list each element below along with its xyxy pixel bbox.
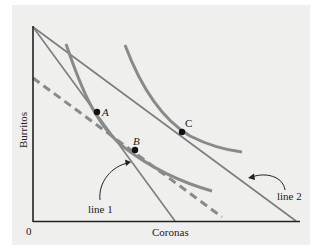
- point-c-label: C: [185, 117, 192, 129]
- line-1-label: line 1: [88, 203, 113, 215]
- x-axis-label: Coronas: [152, 226, 189, 238]
- y-axis-label: Burritos: [17, 112, 29, 148]
- dashed-budget-line: [33, 78, 222, 217]
- line-2-arrow: [252, 175, 285, 190]
- point-b: [132, 147, 138, 153]
- point-c: [179, 129, 185, 135]
- point-a: [94, 109, 100, 115]
- indifference-curve-2: [125, 45, 242, 152]
- line-2-arrowhead-icon: [248, 174, 255, 181]
- point-b-label: B: [133, 135, 140, 147]
- line-1-arrow: [100, 163, 128, 200]
- diagram-canvas: A B C line 1 line 2 0 Coronas Burritos: [0, 0, 321, 251]
- budget-line-2: [33, 27, 296, 221]
- line-2-label: line 2: [277, 190, 302, 202]
- point-a-label: A: [101, 106, 109, 118]
- origin-label: 0: [26, 225, 32, 237]
